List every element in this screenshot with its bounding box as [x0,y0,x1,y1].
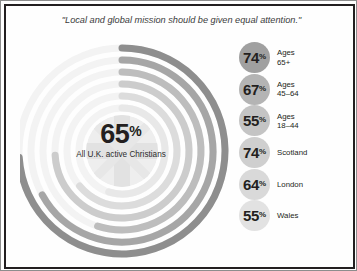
stat-row: 74%Scotland [239,137,355,169]
stat-value: 74% [243,145,266,160]
stat-label: Scotland [277,148,307,157]
stat-bubble: 64% [239,169,270,200]
stat-row: 64%London [239,168,355,200]
stat-value: 64% [243,177,266,192]
radial-dial-chart: 65% All U.K. active Christians [20,37,240,265]
infographic-inner-frame: Engaging in mission "Local and global mi… [4,4,355,269]
stat-value-number: 74 [243,144,259,161]
stat-label: Ages 65+ [277,48,295,67]
stat-label: London [277,180,303,189]
stat-percent-symbol: % [259,115,266,124]
stat-row: 74%Ages 65+ [239,42,355,74]
stat-percent-symbol: % [259,84,266,93]
radial-dial-svg [20,37,240,265]
stat-row: 55%Wales [239,200,355,232]
stat-value: 55% [243,208,266,223]
stat-value-number: 55 [243,112,259,129]
stat-value: 67% [243,82,266,97]
statistics-list: 74%Ages 65+67%Ages 45–6455%Ages 18–4474%… [239,42,355,232]
page-title: Engaging in mission [6,4,355,7]
stat-row: 55%Ages 18–44 [239,105,355,137]
subtitle-quote: "Local and global mission should be give… [6,15,355,25]
stat-percent-symbol: % [259,147,266,156]
stat-value-number: 67 [243,81,259,98]
stat-bubble: 74% [239,137,270,168]
stat-percent-symbol: % [259,210,266,219]
stat-value-number: 74 [243,49,259,66]
stat-value-number: 64 [243,176,259,193]
stat-bubble: 55% [239,200,270,231]
stat-label: Ages 18–44 [277,112,299,131]
stat-bubble: 67% [239,74,270,105]
stat-percent-symbol: % [259,179,266,188]
infographic-panel: Engaging in mission "Local and global mi… [0,0,357,271]
stat-label: Wales [277,211,298,220]
stat-bubble: 74% [239,42,270,73]
stat-bubble: 55% [239,105,270,136]
stat-row: 67%Ages 45–64 [239,74,355,106]
stat-percent-symbol: % [259,52,266,61]
stat-value: 74% [243,50,266,65]
stat-label: Ages 45–64 [277,80,299,99]
center-disc [86,115,158,187]
stat-value-number: 55 [243,207,259,224]
stat-value: 55% [243,113,266,128]
